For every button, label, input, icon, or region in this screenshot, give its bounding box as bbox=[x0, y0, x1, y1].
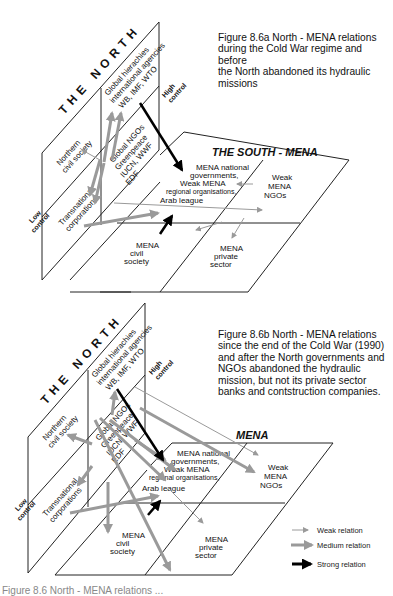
svg-text:regional organisations,: regional organisations, bbox=[166, 188, 236, 196]
high-control-a: High control bbox=[161, 76, 188, 104]
svg-text:NGOs: NGOs bbox=[260, 481, 282, 490]
svg-text:society: society bbox=[124, 257, 149, 266]
svg-text:Weak MENA: Weak MENA bbox=[180, 179, 226, 188]
mena-private-sector-b: MENA private sector bbox=[195, 535, 229, 560]
svg-text:society: society bbox=[110, 547, 135, 556]
mena-civil-society-a: MENA civil society bbox=[124, 241, 160, 266]
legend: Weak relation Medium relation Strong rel… bbox=[291, 526, 370, 569]
legend-strong: Strong relation bbox=[317, 560, 366, 569]
mena-governments-a: MENA national governments, Weak MENA reg… bbox=[160, 163, 249, 205]
svg-text:Weak: Weak bbox=[268, 463, 289, 472]
svg-text:Arab league: Arab league bbox=[142, 484, 186, 493]
svg-text:MENA: MENA bbox=[264, 472, 288, 481]
low-control-a: Low control bbox=[24, 206, 51, 234]
figure-a: THE NORTH THE SOUTH - MENA High control … bbox=[24, 22, 349, 292]
legend-medium: Medium relation bbox=[317, 541, 370, 550]
svg-text:sector: sector bbox=[195, 551, 217, 560]
svg-text:MENA: MENA bbox=[268, 182, 292, 191]
svg-text:Weak: Weak bbox=[272, 173, 293, 182]
mena-ngos-b: Weak MENA NGOs bbox=[260, 463, 289, 490]
svg-text:sector: sector bbox=[210, 260, 232, 269]
bottom-caption: Figure 8.6 North - MENA relations ... bbox=[2, 585, 163, 596]
low-control-b: Low control bbox=[10, 494, 37, 522]
figure-b: THE NORTH MENA High control Low control … bbox=[10, 303, 333, 575]
svg-text:Arab league: Arab league bbox=[160, 196, 204, 205]
high-control-b: High control bbox=[148, 353, 175, 381]
northern-civil-society-b: Northern civil society bbox=[39, 408, 79, 450]
svg-text:NGOs: NGOs bbox=[264, 191, 286, 200]
south-title-a: THE SOUTH - MENA bbox=[212, 146, 318, 158]
mena-civil-society-b: MENA civil society bbox=[110, 531, 146, 556]
mena-private-sector-a: MENA private sector bbox=[210, 244, 244, 269]
arrows-b bbox=[68, 387, 258, 570]
south-title-b: MENA bbox=[236, 429, 268, 441]
mena-ngos-a: Weak MENA NGOs bbox=[264, 173, 293, 200]
legend-weak: Weak relation bbox=[317, 526, 363, 535]
